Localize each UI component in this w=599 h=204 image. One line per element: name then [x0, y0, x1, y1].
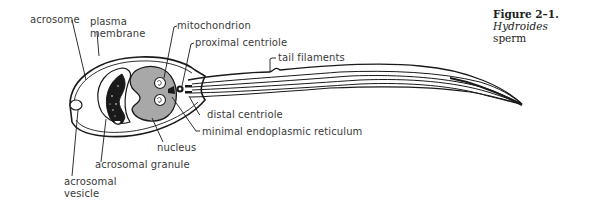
- label-distal-centriole: distal centriole: [207, 109, 283, 121]
- label-plasma-membrane-line1: plasma: [90, 16, 127, 28]
- label-acrosomal-vesicle-line2: vesicle: [64, 188, 99, 200]
- figure-caption: Figure 2–1. Hydroides sperm: [493, 8, 599, 44]
- label-tail-filaments: tail filaments: [278, 52, 345, 64]
- figure-subject: sperm: [493, 32, 599, 44]
- label-acrosome: acrosome: [30, 14, 80, 26]
- label-proximal-centriole: proximal centriole: [195, 37, 287, 49]
- label-acrosomal-vesicle-line1: acrosomal: [64, 176, 117, 188]
- label-acrosomal-granule: acrosomal granule: [95, 159, 190, 171]
- mitochondrion-shape: [155, 78, 166, 89]
- label-nucleus: nucleus: [157, 142, 196, 154]
- acrosomal-vesicle-shape: [70, 100, 82, 110]
- figure-species: Hydroides: [493, 20, 548, 32]
- label-plasma-membrane-line2: membrane: [90, 28, 146, 40]
- nucleus-shape: [130, 67, 176, 122]
- figure-number: Figure 2–1.: [493, 8, 559, 20]
- label-mitochondrion: mitochondrion: [177, 20, 251, 32]
- label-minimal-endoplasmic-reticulum: minimal endoplasmic reticulum: [202, 126, 362, 138]
